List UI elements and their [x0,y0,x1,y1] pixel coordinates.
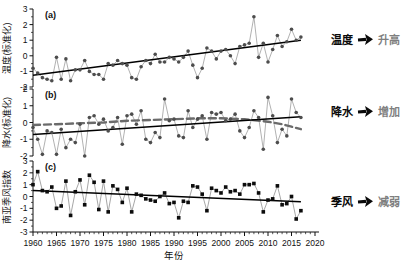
data-point [200,114,204,118]
y-tick-label: -2 [20,215,28,225]
data-point [41,153,45,157]
data-point [74,190,78,194]
data-point [238,192,242,196]
data-point [149,198,153,202]
data-point [36,170,40,174]
data-point [121,142,125,146]
data-point [163,97,167,101]
data-point [243,136,247,140]
data-point [55,56,59,60]
data-point [92,114,96,118]
data-point [243,183,247,187]
data-point [257,56,261,60]
annotation-monsoon: 季风 减弱 [331,193,409,209]
y-tick-label: 0 [23,51,28,61]
data-point [139,109,143,113]
data-point [191,126,195,130]
data-point [266,198,270,202]
data-point [144,197,148,201]
data-point [219,111,223,115]
data-point [31,183,35,187]
annotation-precipitation-label: 降水 [331,103,353,119]
y-tick-label: 1 [23,101,28,111]
data-point [196,185,200,189]
y-tick-label: -3 [20,227,28,237]
data-point [106,62,110,66]
data-point [111,184,115,188]
data-point [247,126,251,130]
data-point [210,49,214,53]
data-point [233,62,237,66]
data-point [172,117,176,121]
data-point [299,35,303,39]
data-point [64,57,68,61]
data-point [285,202,289,206]
x-tick-label: 1980 [118,238,137,248]
data-point [215,112,219,116]
data-point [153,199,157,203]
data-point [210,111,214,115]
data-point [252,15,256,19]
data-point [243,43,247,47]
data-point [182,199,186,203]
data-point [210,186,214,190]
data-point [233,189,237,193]
data-point [144,137,148,141]
data-point [125,63,129,67]
data-point [276,184,280,188]
data-point [69,79,73,83]
data-point [299,116,303,120]
data-point [215,189,219,193]
data-point [106,129,110,133]
data-point [45,129,49,133]
data-point [135,122,139,126]
data-point [290,97,294,101]
data-point [36,71,40,75]
x-tick-label: 2000 [212,238,231,248]
data-point [229,190,233,194]
data-point [50,131,54,135]
data-point [285,40,289,44]
data-point [229,54,233,58]
y-tick-label: 2 [23,168,28,178]
data-point [200,192,204,196]
x-tick-label: 1990 [165,238,184,248]
data-point [182,56,186,60]
y-axis-title-b: 降水(标准化) [1,97,12,148]
x-tick-label: 1960 [24,238,43,248]
data-point [92,73,96,77]
data-point [280,127,284,131]
series-line-a [33,17,301,81]
right-arrow-icon [357,195,374,208]
data-point [158,60,162,64]
data-point [125,114,129,118]
data-point [130,76,134,80]
data-point [74,68,78,72]
data-point [186,201,190,205]
data-point [130,210,134,214]
annotation-temperature-label: 温度 [331,31,353,47]
y-axis-title-c: 南亚季风指数 [1,170,12,224]
data-point [116,59,120,63]
x-axis-title: 年份 [164,250,184,261]
data-point [280,203,284,207]
y-tick-label: 2 [23,84,28,94]
data-point [111,126,115,130]
data-point [280,45,284,49]
data-point [83,59,87,63]
data-point [83,154,87,158]
y-tick-label: -1 [20,66,28,76]
data-point [285,134,289,138]
panel-tag-b: (b) [45,90,57,100]
data-point [64,146,68,150]
data-point [299,209,303,213]
data-point [97,73,101,77]
data-point [130,112,134,116]
data-point [102,179,106,183]
y-tick-label: 0 [23,118,28,128]
data-point [215,57,219,61]
x-tick-label: 2010 [259,238,278,248]
data-point [78,68,82,72]
data-point [290,195,294,199]
data-point [177,216,181,220]
